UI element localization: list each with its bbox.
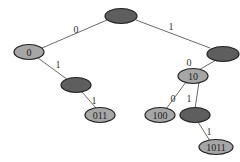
edge-label: 1	[169, 21, 174, 32]
edge-label: 1	[92, 95, 97, 106]
edge-label: 1	[187, 93, 192, 104]
node-root	[105, 9, 137, 24]
svg-text:0: 0	[27, 47, 32, 58]
trie-diagram: 0 1 1 1 0 0 1 1 0 011 10 100 1011	[0, 0, 240, 162]
svg-text:1011: 1011	[206, 142, 226, 153]
svg-text:011: 011	[93, 110, 108, 121]
edge-10-100	[166, 82, 186, 109]
svg-text:10: 10	[188, 71, 198, 82]
edge-label: 0	[74, 24, 79, 35]
node-1	[207, 47, 239, 62]
node-0: 0	[14, 45, 44, 60]
edge-10-101	[195, 82, 199, 109]
svg-text:100: 100	[153, 110, 168, 121]
edge-1-10	[199, 60, 216, 70]
node-1011: 1011	[199, 140, 233, 155]
edge-label: 1	[56, 59, 61, 70]
node-011: 011	[85, 108, 115, 123]
node-100: 100	[145, 108, 175, 123]
edge-label: 0	[171, 93, 176, 104]
node-101	[180, 108, 210, 123]
node-10: 10	[178, 69, 208, 84]
node-01	[61, 78, 91, 93]
edge-0-01	[38, 58, 68, 80]
edge-label: 1	[207, 126, 212, 137]
edge-label: 0	[187, 57, 192, 68]
